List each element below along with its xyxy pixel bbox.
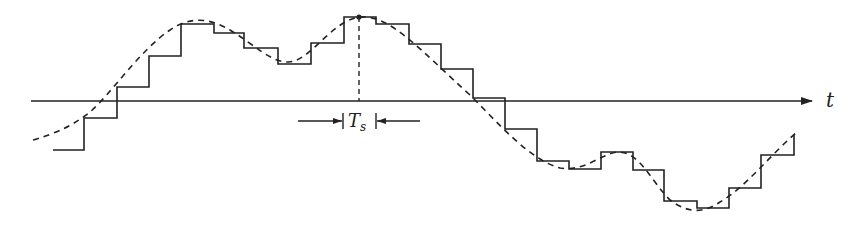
staircase-signal <box>53 17 794 208</box>
sample-point-dot <box>356 14 361 19</box>
ts-subscript: s <box>360 120 366 134</box>
sample-and-hold-diagram: t Ts <box>0 0 859 228</box>
sample-period-annotation: Ts <box>298 110 420 134</box>
continuous-signal-curve <box>33 17 797 211</box>
ts-label: Ts <box>348 110 366 134</box>
time-axis-label: t <box>826 88 835 112</box>
